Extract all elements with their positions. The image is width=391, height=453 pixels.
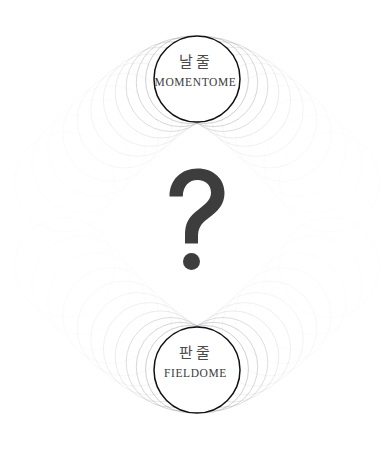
fieldome-circle [154,327,240,413]
emblem-diagram [0,0,391,453]
artwork-canvas: 날줄 MOMENTOME 판줄 FIELDOME [0,0,391,453]
echo-ring [249,253,346,350]
echo-ring [32,236,131,335]
echo-ring [48,99,145,196]
echo-ring [264,236,363,335]
echo-ring [249,99,346,196]
echo-ring [48,253,145,350]
momentome-circle [154,36,240,122]
echo-ring [264,115,363,214]
echo-ring [32,115,131,214]
